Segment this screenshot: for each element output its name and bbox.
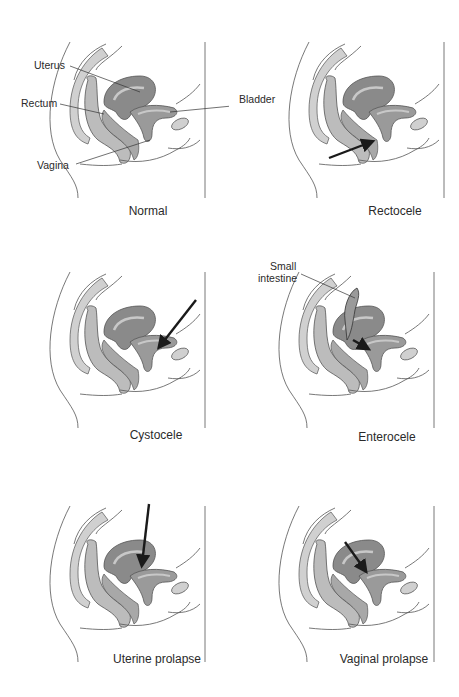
label-vagina: Vagina [37,159,69,171]
panel-enterocele: Small intestine Enterocele [229,230,458,460]
caption-normal: Normal [129,204,168,218]
caption-cystocele: Cystocele [130,428,183,442]
label-rectum: Rectum [21,97,57,109]
anatomy-diagram-enterocele [229,230,458,460]
caption-enterocele: Enterocele [358,430,415,444]
anatomy-diagram-rectocele [229,0,458,230]
anatomy-diagram-normal [0,0,229,230]
label-bladder: Bladder [239,93,275,105]
caption-vaginal-prolapse: Vaginal prolapse [340,652,429,666]
panel-normal: Uterus Rectum Vagina Normal [0,0,229,230]
label-uterus: Uterus [34,59,65,71]
panel-cystocele: Cystocele [0,230,229,460]
panel-uterine-prolapse: Uterine prolapse [0,460,229,690]
anatomy-diagram-cystocele [0,230,229,460]
label-small-intestine-1: Small [270,260,296,272]
label-small-intestine-2: intestine [258,272,297,284]
panel-rectocele: Bladder Rectocele [229,0,458,230]
panel-vaginal-prolapse: Vaginal prolapse [229,460,458,690]
caption-uterine-prolapse: Uterine prolapse [113,652,201,666]
caption-rectocele: Rectocele [368,204,421,218]
